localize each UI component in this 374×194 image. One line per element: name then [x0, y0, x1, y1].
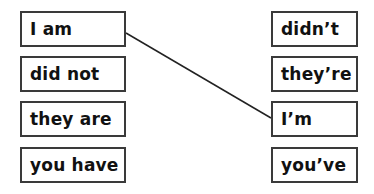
right-box-theyre[interactable]: they’re: [271, 56, 358, 92]
right-box-label: didn’t: [281, 19, 339, 39]
right-box-im[interactable]: I’m: [271, 101, 358, 137]
left-box-you-have[interactable]: you have: [20, 147, 126, 183]
left-box-label: you have: [30, 155, 119, 175]
right-box-youve[interactable]: you’ve: [271, 147, 358, 183]
left-box-i-am[interactable]: I am: [20, 11, 126, 47]
left-box-label: did not: [30, 64, 99, 84]
connection-line-i-am-to-im: [126, 33, 271, 118]
left-box-label: I am: [30, 19, 72, 39]
left-box-they-are[interactable]: they are: [20, 101, 126, 137]
left-box-did-not[interactable]: did not: [20, 56, 126, 92]
right-box-didnt[interactable]: didn’t: [271, 11, 358, 47]
right-box-label: I’m: [281, 109, 312, 129]
right-box-label: you’ve: [281, 155, 346, 175]
right-box-label: they’re: [281, 64, 352, 84]
left-box-label: they are: [30, 109, 112, 129]
